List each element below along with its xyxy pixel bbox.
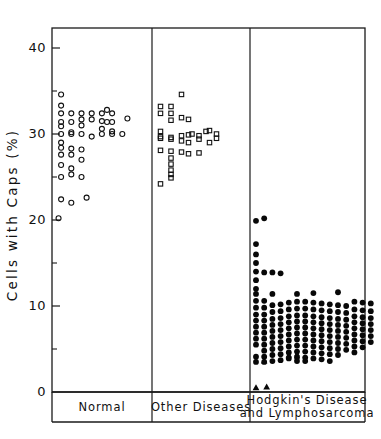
data-point-hodgkins (294, 299, 300, 305)
data-point-hodgkins (286, 344, 292, 350)
data-point-normal (79, 111, 84, 116)
data-point-other-disease (207, 140, 211, 144)
data-point-hodgkins (360, 332, 366, 338)
data-point-normal (69, 111, 74, 116)
data-point-normal (110, 111, 115, 116)
data-point-hodgkins (286, 331, 292, 337)
data-point-hodgkins (311, 350, 317, 356)
data-point-hodgkins (270, 352, 276, 358)
data-point-hodgkins (352, 319, 358, 325)
data-point-hodgkins (311, 300, 317, 306)
data-point-hodgkins (253, 312, 259, 318)
data-point-hodgkins (294, 325, 300, 331)
data-point-hodgkins (319, 314, 325, 320)
data-point-normal (79, 117, 84, 122)
data-point-normal (59, 175, 64, 180)
plot-frame (52, 28, 365, 422)
data-point-hodgkins (294, 306, 300, 312)
figure-container: Cells with Caps (%) 40 30 20 10 0 Normal… (0, 0, 381, 439)
data-point-hodgkins (327, 339, 333, 345)
data-point-hodgkins (360, 320, 366, 326)
data-point-hodgkins (302, 343, 308, 349)
data-point-hodgkins (335, 322, 341, 328)
data-point-hodgkins (286, 325, 292, 331)
data-point-hodgkins (261, 336, 267, 342)
data-point-normal (120, 132, 125, 137)
data-point-hodgkins (253, 286, 259, 292)
data-point-hodgkins (302, 313, 308, 319)
data-point-hodgkins (311, 344, 317, 350)
data-point-hodgkins (352, 338, 358, 344)
data-point-hodgkins (319, 344, 325, 350)
data-points-normal (56, 92, 130, 221)
data-point-other-disease (169, 149, 173, 153)
data-point-hodgkins (335, 346, 341, 352)
data-point-hodgkins (368, 315, 374, 321)
data-point-hodgkins (319, 320, 325, 326)
data-point-hodgkins (327, 308, 333, 314)
data-point-hodgkins (368, 321, 374, 327)
data-point-hodgkins (270, 270, 276, 276)
data-point-normal (99, 132, 104, 137)
data-point-other-disease (179, 92, 183, 96)
data-point-other-disease (179, 150, 183, 154)
data-point-hodgkins (253, 241, 259, 247)
y-axis-label: Cells with Caps (%) (4, 129, 20, 301)
data-point-other-disease (179, 134, 183, 138)
data-point-hodgkins (294, 343, 300, 349)
data-point-hodgkins (319, 350, 325, 356)
data-point-hodgkins (327, 301, 333, 307)
data-points-other-diseases (158, 92, 218, 186)
group-label-other-diseases: Other Diseases (151, 400, 251, 414)
data-point-other-disease (169, 104, 173, 108)
data-point-hodgkins (294, 313, 300, 319)
data-point-hodgkins (278, 339, 284, 345)
data-point-hodgkins (253, 342, 259, 348)
data-point-other-disease (186, 140, 190, 144)
data-point-hodgkins (261, 324, 267, 330)
data-point-hodgkins (253, 269, 259, 275)
data-point-hodgkins (302, 319, 308, 325)
data-point-hodgkins (302, 331, 308, 337)
data-point-other-disease (158, 148, 162, 152)
data-point-hodgkins (278, 301, 284, 307)
data-point-normal (59, 162, 64, 167)
data-point-hodgkins (294, 291, 300, 297)
data-point-hodgkins (270, 334, 276, 340)
data-points-hodgkins (253, 215, 374, 390)
data-point-hodgkins (278, 345, 284, 351)
data-point-hodgkins (286, 307, 292, 313)
data-point-hodgkins (343, 310, 349, 316)
data-point-hodgkins (335, 316, 341, 322)
data-point-normal (79, 147, 84, 152)
data-point-hodgkins (270, 322, 276, 328)
data-point-normal (59, 92, 64, 97)
data-point-hodgkins (253, 336, 259, 342)
y-tick-label-40: 40 (28, 40, 46, 55)
data-point-hodgkins (368, 301, 374, 307)
data-point-hodgkins (302, 349, 308, 355)
data-point-normal (89, 134, 94, 139)
data-point-normal (69, 172, 74, 177)
data-point-hodgkins (335, 340, 341, 346)
data-point-hodgkins (294, 331, 300, 337)
data-point-normal (59, 145, 64, 150)
data-point-other-disease (169, 168, 173, 172)
data-point-hodgkins (278, 315, 284, 321)
data-point-normal (69, 200, 74, 205)
data-point-hodgkins (261, 305, 267, 311)
data-point-hodgkins (352, 307, 358, 313)
data-point-hodgkins (311, 319, 317, 325)
data-point-hodgkins (360, 326, 366, 332)
data-point-hodgkins (286, 313, 292, 319)
data-point-hodgkins (335, 352, 341, 358)
data-point-normal (69, 152, 74, 157)
data-point-normal (59, 111, 64, 116)
data-point-hodgkins (360, 344, 366, 350)
data-point-hodgkins (302, 337, 308, 343)
data-point-hodgkins (278, 270, 284, 276)
data-point-hodgkins (261, 215, 267, 221)
data-point-normal (99, 126, 104, 131)
y-tick-label-0: 0 (37, 384, 46, 399)
data-point-hodgkins-triangle (263, 383, 270, 389)
